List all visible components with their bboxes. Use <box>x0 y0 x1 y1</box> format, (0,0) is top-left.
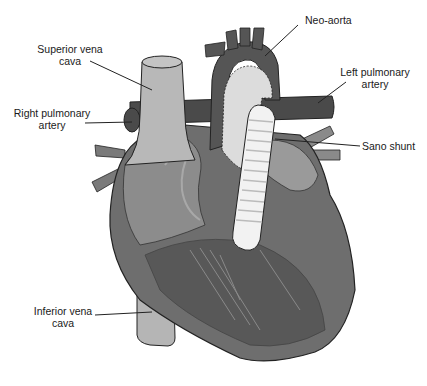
label-neo-aorta: Neo-aorta <box>305 14 352 26</box>
right-pulmonary-artery-end <box>124 108 140 132</box>
label-sano-shunt: Sano shunt <box>362 140 415 152</box>
label-line: cava <box>28 317 98 329</box>
label-line: Superior vena <box>30 43 110 55</box>
label-inferior-vena-cava: Inferior vena cava <box>28 305 98 329</box>
label-superior-vena-cava: Superior vena cava <box>30 43 110 67</box>
label-line: Sano shunt <box>362 140 415 152</box>
label-line: Left pulmonary <box>330 66 420 78</box>
svc-top <box>142 56 182 68</box>
label-line: Right pulmonary <box>12 107 92 119</box>
label-line: artery <box>330 78 420 90</box>
label-line: cava <box>30 55 110 67</box>
label-line: Inferior vena <box>28 305 98 317</box>
label-line: Neo-aorta <box>305 14 352 26</box>
label-right-pulmonary-artery: Right pulmonary artery <box>12 107 92 131</box>
label-line: artery <box>12 119 92 131</box>
label-left-pulmonary-artery: Left pulmonary artery <box>330 66 420 90</box>
